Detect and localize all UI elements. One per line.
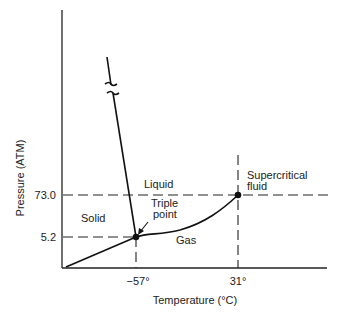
solid-label: Solid [81,212,105,224]
sublimation-curve [66,237,136,267]
triple-point-label-2: point [153,208,177,220]
liquid-label: Liquid [144,178,173,190]
y-tick-5-2: 5.2 [41,231,56,243]
y-axis-label: Pressure (ATM) [14,140,26,217]
gas-label: Gas [176,234,197,246]
x-tick-31: 31° [230,275,247,287]
x-tick-minus-57: −57° [126,275,149,287]
y-tick-73: 73.0 [35,189,56,201]
fusion-curve [113,93,136,237]
arrow-head-icon [138,228,144,235]
supercritical-label-2: fluid [247,180,267,192]
phase-diagram: 73.0 5.2 −57° 31° Temperature (°C) Press… [0,0,338,314]
fusion-curve-top [107,57,111,85]
axis-break-icon [105,83,119,95]
x-axis-label: Temperature (°C) [153,294,237,306]
critical-point-marker [235,192,242,199]
